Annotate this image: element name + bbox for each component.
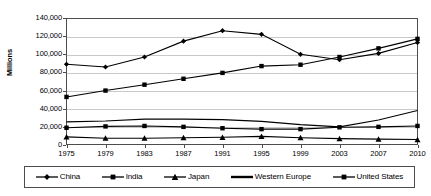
- legend-item-japan[interactable]: Japan: [164, 172, 209, 182]
- data-point-india: [220, 71, 224, 75]
- legend-label: India: [126, 173, 143, 181]
- data-point-united-states: [337, 125, 341, 129]
- series-line-japan: [67, 136, 418, 139]
- x-tick-mark: [301, 145, 302, 148]
- data-point-india: [376, 46, 380, 50]
- x-tick-label: 2007: [359, 150, 399, 158]
- data-point-india: [415, 37, 419, 41]
- x-tick-mark: [67, 145, 68, 148]
- data-point-india: [259, 64, 263, 68]
- x-tick-mark: [145, 145, 146, 148]
- x-tick-label: 2010: [398, 150, 431, 158]
- legend-marker-square-icon: [333, 172, 355, 182]
- y-tick-label: 80,000: [40, 68, 62, 76]
- x-tick-mark: [262, 145, 263, 148]
- data-point-united-states: [181, 125, 185, 129]
- data-point-china: [376, 51, 381, 56]
- legend-item-china[interactable]: China: [36, 172, 80, 182]
- y-axis: Millions 140,000120,000100,00080,00060,0…: [0, 0, 66, 165]
- y-tick-label: 40,000: [40, 105, 62, 113]
- y-tick-label: 140,000: [36, 14, 62, 22]
- x-tick-label: 1987: [164, 150, 204, 158]
- legend-marker-diamond-icon: [36, 172, 58, 182]
- legend-marker-triangle-icon: [164, 172, 186, 182]
- x-tick-mark: [106, 145, 107, 148]
- legend-label: Western Europe: [255, 173, 311, 181]
- legend-marker-none-icon: [231, 172, 253, 182]
- data-point-china: [298, 52, 303, 57]
- y-axis-title: Millions: [5, 36, 14, 90]
- legend-item-india[interactable]: India: [102, 172, 143, 182]
- data-point-united-states: [259, 127, 263, 131]
- x-tick-label: 1995: [242, 150, 282, 158]
- data-point-united-states: [298, 127, 302, 131]
- data-point-india: [181, 77, 185, 81]
- data-point-united-states: [142, 124, 146, 128]
- series-line-china: [67, 31, 418, 67]
- legend-item-western-europe[interactable]: Western Europe: [231, 172, 311, 182]
- line-chart: Millions 140,000120,000100,00080,00060,0…: [0, 0, 431, 196]
- data-point-china: [142, 54, 147, 59]
- x-tick-mark: [223, 145, 224, 148]
- x-tick-mark: [418, 145, 419, 148]
- data-point-china: [103, 64, 108, 69]
- y-tick-label: 100,000: [36, 50, 62, 58]
- data-point-india: [337, 55, 341, 59]
- chart-legend: ChinaIndiaJapanWestern EuropeUnited Stat…: [24, 166, 415, 188]
- series-line-united-states: [67, 126, 418, 129]
- series-line-india: [67, 39, 418, 97]
- x-tick-label: 2003: [320, 150, 360, 158]
- data-point-china: [220, 28, 225, 33]
- data-point-united-states: [376, 125, 380, 129]
- legend-marker-square-icon: [102, 172, 124, 182]
- y-tick-label: 0: [58, 141, 62, 149]
- data-point-united-states: [415, 124, 419, 128]
- data-point-china: [259, 32, 264, 37]
- legend-label: United States: [357, 173, 404, 181]
- x-tick-label: 1979: [86, 150, 126, 158]
- x-tick-label: 1983: [125, 150, 165, 158]
- data-point-india: [103, 88, 107, 92]
- x-tick-mark: [379, 145, 380, 148]
- x-tick-label: 1975: [47, 150, 87, 158]
- data-point-united-states: [220, 126, 224, 130]
- y-tick-label: 20,000: [40, 123, 62, 131]
- legend-label: China: [60, 173, 80, 181]
- x-tick-label: 1991: [203, 150, 243, 158]
- legend-label: Japan: [188, 173, 209, 181]
- series-layer: [66, 18, 418, 145]
- data-point-india: [64, 95, 68, 99]
- data-point-united-states: [64, 126, 68, 130]
- y-tick-label: 60,000: [40, 87, 62, 95]
- legend-item-united-states[interactable]: United States: [333, 172, 404, 182]
- data-point-india: [298, 63, 302, 67]
- data-point-india: [142, 82, 146, 86]
- x-tick-mark: [184, 145, 185, 148]
- x-tick-mark: [340, 145, 341, 148]
- x-tick-label: 1999: [281, 150, 321, 158]
- data-point-china: [181, 39, 186, 44]
- series-line-western-europe: [67, 111, 418, 127]
- y-tick-label: 120,000: [36, 32, 62, 40]
- data-point-united-states: [103, 124, 107, 128]
